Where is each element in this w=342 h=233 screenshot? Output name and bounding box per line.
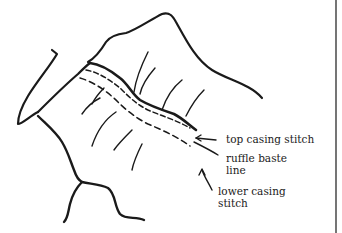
gather-line — [114, 130, 132, 150]
label-lower-casing-stitch-2: stitch — [218, 197, 286, 209]
arrow-ruffle-baste-line — [194, 142, 218, 155]
label-ruffle-baste-line-1: ruffle baste — [226, 152, 287, 164]
gather-line — [92, 88, 104, 104]
gather-line — [134, 52, 148, 92]
gather-line — [132, 144, 142, 170]
label-ruffle-baste-line-2: line — [226, 164, 287, 176]
gather-line — [92, 112, 116, 146]
label-ruffle-baste-line: ruffle baste line — [226, 152, 287, 176]
gather-line — [82, 98, 100, 114]
label-top-casing-stitch: top casing stitch — [226, 133, 314, 145]
gather-line — [162, 80, 182, 110]
ruffle-bottom-branch — [64, 182, 82, 222]
arrow-lower-casing-stitch-head — [199, 169, 205, 175]
ruffle-casing-illustration — [0, 0, 342, 233]
label-lower-casing-stitch: lower casing stitch — [218, 185, 286, 209]
fabric-outline-top — [88, 13, 262, 98]
gather-line — [140, 68, 155, 94]
ruffle-bottom-edge — [38, 116, 144, 220]
gather-line — [186, 90, 204, 116]
label-lower-casing-stitch-1: lower casing — [218, 185, 286, 197]
diagram-canvas: top casing stitch ruffle baste line lowe… — [0, 0, 342, 233]
